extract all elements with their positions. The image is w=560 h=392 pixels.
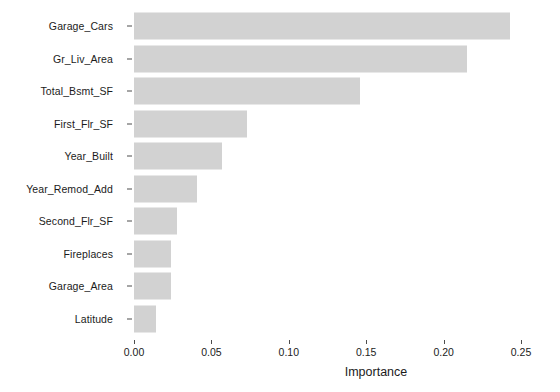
y-axis-tick [127, 26, 132, 27]
category-label-first-flr-sf: First_Flr_SF [54, 118, 113, 130]
x-axis-tick [134, 340, 135, 344]
category-label-gr-liv-area: Gr_Liv_Area [53, 53, 113, 65]
y-axis-tick [127, 188, 132, 189]
bar-garage-cars [134, 13, 510, 40]
bar-row: Second_Flr_SF [0, 205, 560, 238]
y-axis-tick [127, 221, 132, 222]
bar-row: Garage_Area [0, 270, 560, 303]
bar-row: Year_Remod_Add [0, 173, 560, 206]
bar-row: Gr_Liv_Area [0, 43, 560, 76]
bar-total-bsmt-sf [134, 78, 360, 105]
y-axis-tick [127, 318, 132, 319]
bar-first-flr-sf [134, 110, 247, 137]
y-axis-tick [127, 253, 132, 254]
bar-gr-liv-area [134, 45, 467, 72]
x-axis-title: Importance [0, 364, 560, 380]
x-axis-tick-label: 0.25 [511, 346, 531, 359]
bar-garage-area [134, 273, 171, 300]
bar-row: Fireplaces [0, 238, 560, 271]
bar-latitude [134, 305, 156, 332]
bar-row: Total_Bsmt_SF [0, 75, 560, 108]
x-axis: Importance 0.000.050.100.150.200.25 [0, 340, 560, 392]
y-axis-tick [127, 91, 132, 92]
y-axis-tick [127, 286, 132, 287]
category-label-latitude: Latitude [75, 313, 113, 325]
x-axis-tick [521, 340, 522, 344]
x-axis-tick [211, 340, 212, 344]
x-axis-tick-label: 0.15 [356, 346, 376, 359]
bar-row: First_Flr_SF [0, 108, 560, 141]
category-label-garage-cars: Garage_Cars [49, 20, 113, 32]
category-label-fireplaces: Fireplaces [64, 248, 113, 260]
bar-row: Year_Built [0, 140, 560, 173]
bar-fireplaces [134, 240, 171, 267]
x-axis-tick [366, 340, 367, 344]
category-label-year-built: Year_Built [65, 150, 113, 162]
x-axis-title-text: Importance [345, 364, 408, 380]
y-axis-tick [127, 58, 132, 59]
x-axis-tick-label: 0.00 [124, 346, 144, 359]
category-label-year-remod-add: Year_Remod_Add [26, 183, 113, 195]
x-axis-tick-label: 0.20 [433, 346, 453, 359]
x-axis-tick [444, 340, 445, 344]
bar-year-remod-add [134, 175, 197, 202]
x-axis-tick-label: 0.05 [201, 346, 221, 359]
category-label-garage-area: Garage_Area [49, 280, 113, 292]
x-axis-tick-label: 0.10 [279, 346, 299, 359]
bar-row: Latitude [0, 303, 560, 336]
bar-row: Garage_Cars [0, 10, 560, 43]
variable-importance-bar-chart: Garage_CarsGr_Liv_AreaTotal_Bsmt_SFFirst… [0, 0, 560, 392]
plot-area: Garage_CarsGr_Liv_AreaTotal_Bsmt_SFFirst… [0, 0, 560, 340]
x-axis-tick [289, 340, 290, 344]
bar-year-built [134, 143, 222, 170]
bar-second-flr-sf [134, 208, 177, 235]
y-axis-tick [127, 156, 132, 157]
category-label-total-bsmt-sf: Total_Bsmt_SF [41, 85, 114, 97]
category-label-second-flr-sf: Second_Flr_SF [39, 215, 113, 227]
y-axis-tick [127, 123, 132, 124]
